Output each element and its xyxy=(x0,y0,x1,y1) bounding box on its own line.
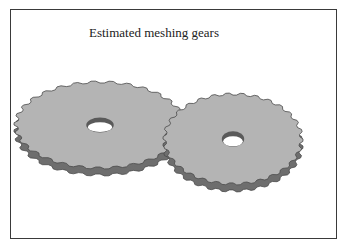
gear-right xyxy=(163,93,303,192)
gears-illustration xyxy=(0,0,344,241)
gear-left xyxy=(14,81,186,176)
